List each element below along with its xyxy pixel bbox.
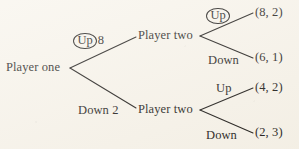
branch-label-up-bottom: Up <box>216 82 231 95</box>
branch-label-down-root: Down 2 <box>78 104 119 117</box>
branch-label-up-root-text: Up <box>73 33 97 50</box>
branch-label-up-root: Up8 <box>73 31 104 49</box>
branch-label-up-top: Up <box>206 6 230 24</box>
payoff-top-up: (8, 2) <box>255 6 283 19</box>
payoff-top-down: (6, 1) <box>255 51 283 64</box>
branch-label-up-root-value: 8 <box>98 33 104 47</box>
payoff-bottom-up: (4, 2) <box>255 81 283 94</box>
branch-label-down-top: Down <box>208 54 239 67</box>
node-player-two-bottom: Player two <box>138 103 193 116</box>
node-player-two-top: Player two <box>138 29 193 42</box>
node-player-one: Player one <box>6 61 60 74</box>
edge-root-down <box>70 68 136 108</box>
branch-label-up-top-text: Up <box>206 8 230 25</box>
branch-label-down-bottom: Down <box>206 129 237 142</box>
game-tree-diagram: Player one Player two Player two Up8 Dow… <box>0 0 299 149</box>
payoff-bottom-down: (2, 3) <box>255 126 283 139</box>
